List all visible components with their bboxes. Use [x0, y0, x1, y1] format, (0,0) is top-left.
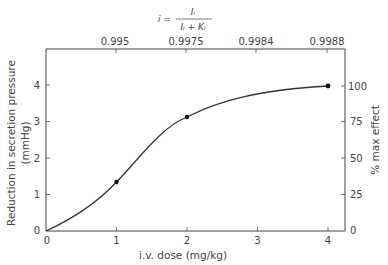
data-points [114, 84, 330, 185]
y-left-tick-label: 3 [34, 116, 40, 127]
data-point [326, 84, 331, 89]
x-tick-label: 4 [325, 235, 331, 246]
top-tick-label: 0.9975 [169, 36, 204, 47]
formula-lhs: i = [158, 14, 171, 24]
formula-denominator: Iᵢ + Kᵢ [180, 22, 205, 32]
top-axis-ticks: 0.995 0.9975 0.9984 0.9988 [101, 36, 345, 53]
x-tick-label: 3 [254, 235, 260, 246]
y-left-tick-label: 0 [34, 225, 40, 236]
x-axis-title: i.v. dose (mg/kg) [139, 249, 227, 261]
data-point [114, 180, 118, 184]
y-left-axis-title: Reduction in secretion pressure [5, 60, 17, 226]
formula: i = Iᵢ Iᵢ + Kᵢ [158, 7, 212, 32]
formula-numerator: Iᵢ [191, 7, 196, 17]
data-point [185, 115, 189, 119]
y-right-axis-title: % max effect [369, 105, 381, 175]
y-axis-left-ticks: 0 1 2 3 4 [34, 80, 50, 237]
y-left-tick-label: 2 [34, 153, 40, 164]
x-tick-label: 2 [184, 235, 190, 246]
y-left-tick-label: 4 [34, 80, 40, 91]
x-axis-ticks: 0 1 2 3 4 [44, 227, 331, 246]
y-right-tick-label: 0 [350, 225, 356, 236]
dose-response-chart: i = Iᵢ Iᵢ + Kᵢ 0 1 2 3 4 i.v. dose (mg/k… [0, 0, 388, 265]
x-tick-label: 0 [44, 235, 50, 246]
top-tick-label: 0.9984 [239, 36, 274, 47]
y-left-axis-unit: (mmHg) [19, 121, 31, 164]
y-right-tick-label: 50 [350, 153, 363, 164]
x-tick-label: 1 [113, 235, 119, 246]
y-right-tick-label: 100 [348, 81, 367, 92]
top-tick-label: 0.9988 [310, 36, 345, 47]
y-left-tick-label: 1 [34, 189, 40, 200]
y-right-tick-label: 25 [350, 189, 363, 200]
dose-response-curve [46, 86, 328, 231]
top-tick-label: 0.995 [101, 36, 130, 47]
y-right-tick-label: 75 [350, 116, 363, 127]
plot-frame [46, 49, 345, 231]
